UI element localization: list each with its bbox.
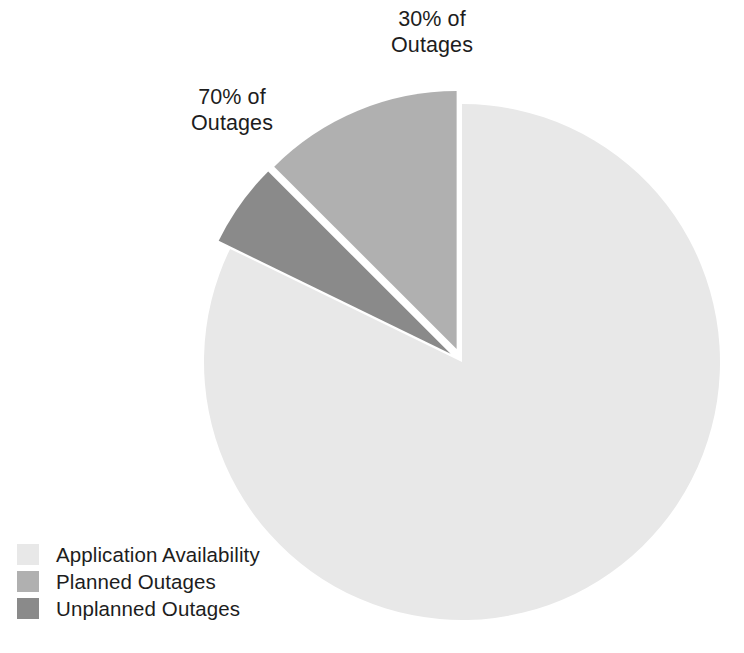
legend-label-planned-outages: Planned Outages — [56, 570, 216, 594]
legend-swatch-application-availability — [17, 544, 39, 565]
legend-label-application-availability: Application Availability — [56, 543, 260, 567]
pie-slices-group — [204, 91, 720, 620]
legend-item-planned-outages: Planned Outages — [17, 568, 260, 595]
pie-slice-application-availability — [204, 104, 720, 620]
chart-legend: Application Availability Planned Outages… — [17, 541, 260, 622]
legend-item-application-availability: Application Availability — [17, 541, 260, 568]
legend-swatch-planned-outages — [17, 571, 39, 592]
legend-item-unplanned-outages: Unplanned Outages — [17, 595, 260, 622]
legend-swatch-unplanned-outages — [17, 598, 39, 619]
legend-label-unplanned-outages: Unplanned Outages — [56, 597, 240, 621]
unplanned-outages-callout-label: 30% of Outages — [352, 6, 512, 58]
planned-outages-callout-label: 70% of Outages — [148, 84, 316, 136]
pie-chart-figure: 30% of Outages 70% of Outages Applicatio… — [0, 0, 744, 653]
